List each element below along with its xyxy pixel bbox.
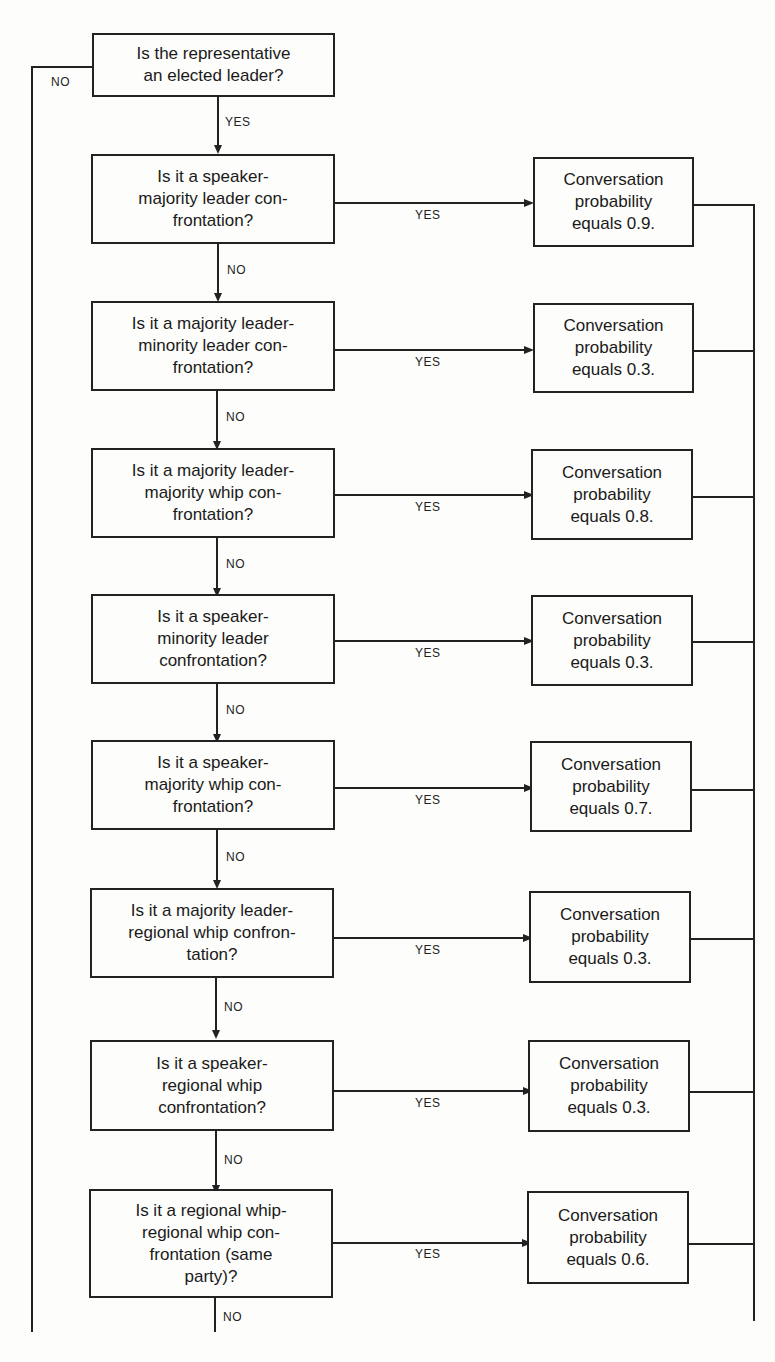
no-connector [216,391,218,443]
no-label: NO [223,1310,242,1324]
no-label: NO [224,1153,243,1167]
outcome-text-line: probability [562,630,662,652]
outcome-text-line: Conversation [563,169,663,191]
yes-connector [333,1242,523,1244]
outcome-box: Conversation probability equals 0.3. [533,303,694,393]
decision-box: Is it a majority leader- regional whip c… [90,888,334,978]
outcome-box: Conversation probability equals 0.3. [531,595,693,686]
decision-text-line: regional whip confron- [128,922,295,944]
yes-connector [335,349,525,351]
decision-box: Is it a majority leader- minority leader… [91,301,335,391]
outcome-text-line: equals 0.7. [561,798,661,820]
no-connector [217,244,219,295]
start-decision-box: Is the representative an elected leader? [92,33,335,97]
outcome-connector [694,350,755,352]
no-label: NO [224,1000,243,1014]
decision-text-line: majority whip con- [145,774,282,796]
decision-text-line: Is it a speaker- [138,166,287,188]
no-connector [216,538,218,590]
decision-text-line: majority whip con- [132,482,295,504]
yes-connector [334,937,524,939]
outcome-text-line: Conversation [561,754,661,776]
no-connector [214,1298,216,1332]
decision-box: Is it a speaker- minority leader confron… [91,594,335,684]
decision-text-line: Is it a majority leader- [132,460,295,482]
outcome-box: Conversation probability equals 0.9. [533,157,694,247]
outcome-connector [693,641,755,643]
no-label: NO [226,410,245,424]
outcome-text-line: probability [559,1075,659,1097]
no-connector [216,684,218,736]
outcome-text-line: probability [562,484,662,506]
yes-label: YES [415,1096,441,1110]
outcome-text-line: equals 0.3. [559,1097,659,1119]
outcome-text-line: equals 0.9. [563,213,663,235]
outcome-connector [693,496,755,498]
start-line-2: an elected leader? [136,65,290,87]
no-label: NO [227,263,246,277]
outcome-text-line: probability [563,191,663,213]
yes-label: YES [415,793,441,807]
decision-text-line: majority leader con- [138,188,287,210]
decision-box: Is it a majority leader- majority whip c… [91,448,335,538]
outcome-connector [689,1243,755,1245]
outcome-text-line: equals 0.3. [563,359,663,381]
yes-label: YES [415,208,441,222]
yes-connector [335,787,525,789]
decision-text-line: party)? [135,1266,286,1288]
start-no-connector-v [31,66,33,1332]
decision-text-line: regional whip [156,1075,268,1097]
outcome-text-line: Conversation [560,904,660,926]
decision-text-line: confrontation? [157,650,269,672]
outcome-connector [694,204,755,206]
outcome-box: Conversation probability equals 0.3. [529,891,691,983]
yes-label: YES [415,943,441,957]
outcome-text-line: equals 0.8. [562,506,662,528]
decision-box: Is it a regional whip- regional whip con… [89,1189,333,1298]
decision-text-line: Is it a speaker- [145,752,282,774]
outcome-text-line: probability [558,1227,658,1249]
start-no-label: NO [51,75,70,89]
outcome-text-line: Conversation [562,608,662,630]
start-yes-label: YES [225,115,251,129]
decision-text-line: regional whip con- [135,1222,286,1244]
outcome-text-line: probability [563,337,663,359]
no-label: NO [226,850,245,864]
decision-text-line: frontation? [132,357,295,379]
yes-label: YES [415,355,441,369]
outcome-connector [691,938,755,940]
outcome-text-line: Conversation [558,1205,658,1227]
arrow-down-icon [214,145,222,154]
outcome-box: Conversation probability equals 0.8. [531,449,693,540]
outcome-text-line: equals 0.3. [560,948,660,970]
outcome-text-line: probability [561,776,661,798]
yes-label: YES [415,1247,441,1261]
decision-text-line: tation? [128,944,295,966]
outcome-connector [692,789,755,791]
yes-connector [335,494,525,496]
decision-text-line: minority leader con- [132,335,295,357]
decision-box: Is it a speaker- regional whip confronta… [90,1040,334,1131]
outcome-text-line: equals 0.6. [558,1249,658,1271]
yes-label: YES [415,646,441,660]
outcome-text-line: probability [560,926,660,948]
start-no-connector-h [31,66,93,68]
right-collector-line [753,204,755,1321]
outcome-box: Conversation probability equals 0.7. [530,741,692,832]
outcome-box: Conversation probability equals 0.3. [528,1040,690,1132]
outcome-text-line: Conversation [562,462,662,484]
no-label: NO [226,557,245,571]
decision-text-line: Is it a speaker- [157,606,269,628]
outcome-connector [690,1091,755,1093]
decision-box: Is it a speaker- majority leader con- fr… [91,154,335,244]
decision-text-line: frontation? [138,210,287,232]
outcome-text-line: Conversation [563,315,663,337]
yes-connector [334,1090,524,1092]
yes-connector [335,202,525,204]
no-connector [216,830,218,882]
decision-text-line: frontation? [145,796,282,818]
no-connector [215,1131,217,1187]
yes-connector [335,640,525,642]
start-line-1: Is the representative [136,43,290,65]
decision-text-line: confrontation? [156,1097,268,1119]
